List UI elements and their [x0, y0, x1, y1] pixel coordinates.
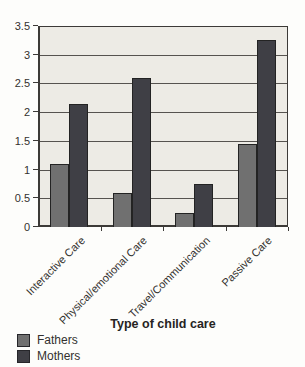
legend-label-fathers: Fathers	[37, 333, 78, 347]
gridline-2.5	[40, 83, 287, 84]
bar-fathers-interactive-care	[50, 164, 69, 227]
category-label-interactive-care: Interactive Care	[23, 234, 86, 297]
y-tick-label-2.5: 2.5	[6, 77, 30, 89]
y-tick-label-1.5: 1.5	[6, 135, 30, 147]
y-tick-label-3.5: 3.5	[6, 20, 30, 32]
y-tick-mark	[33, 226, 38, 227]
y-tick-mark	[33, 54, 38, 55]
y-tick-mark	[33, 25, 38, 26]
legend-item-fathers: Fathers	[17, 333, 80, 347]
y-tick-label-1: 1	[6, 164, 30, 176]
gridline-3	[40, 55, 287, 56]
legend-label-mothers: Mothers	[37, 349, 80, 363]
y-tick-mark	[33, 140, 38, 141]
y-tick-label-3: 3	[6, 49, 30, 61]
bar-mothers-interactive-care	[69, 104, 88, 227]
legend-swatch-fathers	[17, 334, 30, 347]
bar-mothers-passive-care	[257, 40, 276, 227]
category-label-passive-care: Passive Care	[219, 234, 274, 289]
x-tick-mark	[163, 227, 164, 231]
y-tick-label-2: 2	[6, 106, 30, 118]
y-tick-mark	[33, 82, 38, 83]
y-tick-mark	[33, 111, 38, 112]
bar-chart: 00.511.522.533.5 Interactive CarePhysica…	[0, 0, 305, 367]
y-tick-mark	[33, 197, 38, 198]
bar-fathers-travel-communication	[175, 213, 194, 227]
x-tick-mark	[288, 227, 289, 231]
y-tick-label-0: 0	[6, 221, 30, 233]
y-tick-mark	[33, 169, 38, 170]
legend: FathersMothers	[17, 333, 80, 363]
y-tick-label-0.5: 0.5	[6, 192, 30, 204]
bar-mothers-travel-communication	[194, 184, 213, 227]
x-axis-title: Type of child care	[38, 317, 288, 331]
x-tick-mark	[101, 227, 102, 231]
bar-fathers-physical-emotional-care	[113, 193, 132, 227]
legend-item-mothers: Mothers	[17, 349, 80, 363]
x-tick-mark	[226, 227, 227, 231]
bar-mothers-physical-emotional-care	[132, 78, 151, 227]
bar-fathers-passive-care	[238, 144, 257, 227]
legend-swatch-mothers	[17, 350, 30, 363]
